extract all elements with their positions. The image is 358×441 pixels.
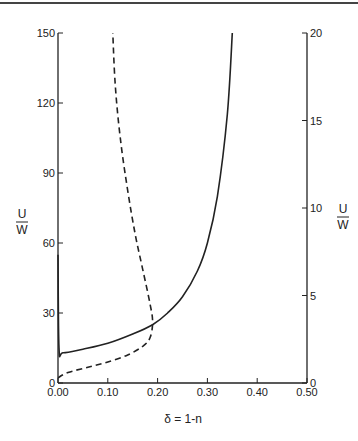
x-tick-label: 0.20 [147,386,168,398]
x-tick-label: 0.40 [246,386,267,398]
right-axis-title: U W [337,202,349,232]
left-axis-title-u: U [18,207,27,221]
y-right-tick-label: 20 [310,27,322,39]
dashed-series-line [58,33,153,378]
y-left-tick-label: 60 [43,237,55,249]
x-tick-label: 0.10 [97,386,118,398]
series [58,33,232,378]
x-tick-label: 0.30 [197,386,218,398]
y-right-tick-label: 15 [310,115,322,127]
chart: 0.000.100.200.300.400.500306090120150051… [0,0,358,441]
y-left-tick-label: 0 [49,377,55,389]
right-axis-title-u: U [339,202,348,216]
y-left-tick-label: 90 [43,167,55,179]
axes [58,33,307,383]
ticks: 0.000.100.200.300.400.500306090120150051… [37,27,323,398]
right-axis-title-w: W [337,218,349,232]
x-axis-title: δ = 1-n [164,412,202,426]
y-right-tick-label: 5 [310,290,316,302]
y-left-tick-label: 150 [37,27,55,39]
solid-series-line [58,33,232,357]
left-axis-title-w: W [16,223,28,237]
y-right-tick-label: 10 [310,202,322,214]
y-right-tick-label: 0 [310,377,316,389]
left-axis-title: U W [16,207,28,237]
y-left-tick-label: 120 [37,97,55,109]
y-left-tick-label: 30 [43,307,55,319]
